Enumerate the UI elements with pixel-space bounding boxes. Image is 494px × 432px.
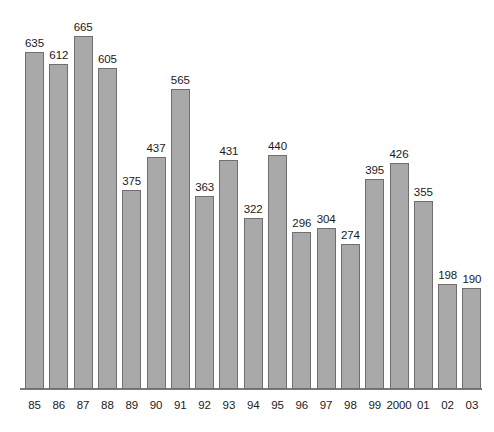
x-axis-tick-label: 02 [441,399,454,412]
bar[interactable] [244,218,263,389]
bar-value-label: 355 [414,186,433,199]
x-axis-tick-label: 93 [223,399,236,412]
bar[interactable] [219,160,238,389]
x-axis-tick-label: 98 [344,399,357,412]
x-axis-tick-label: 86 [53,399,66,412]
bar-value-label: 437 [147,142,166,155]
bar[interactable] [171,89,190,389]
bar[interactable] [390,163,409,389]
x-axis-tick-label: 91 [174,399,187,412]
bar-chart: 6358561286665876058837589437905659136392… [0,0,494,432]
bar[interactable] [147,157,166,389]
x-axis-tick-label: 85 [28,399,41,412]
bar-value-label: 431 [219,145,238,158]
bar[interactable] [341,244,360,389]
bar-value-label: 296 [292,217,311,230]
bar[interactable] [292,232,311,389]
bar[interactable] [98,68,117,389]
x-axis-tick-label: 92 [198,399,211,412]
x-axis-tick-label: 90 [150,399,163,412]
bar-value-label: 395 [365,164,384,177]
bar-value-label: 190 [462,273,481,286]
bar-value-label: 198 [438,269,457,282]
bar-value-label: 426 [390,148,409,161]
bar-value-label: 565 [171,74,190,87]
bar-value-label: 322 [244,203,263,216]
bar[interactable] [317,228,336,389]
bar[interactable] [195,196,214,389]
plot-area: 6358561286665876058837589437905659136392… [0,0,494,432]
x-axis-tick-label: 88 [101,399,114,412]
x-axis-tick-label: 2000 [386,399,411,412]
bar-value-label: 605 [98,53,117,66]
bar[interactable] [268,155,287,389]
x-axis-tick-label: 97 [320,399,333,412]
bar-value-label: 363 [195,181,214,194]
bar-value-label: 665 [74,21,93,34]
bar-value-label: 635 [25,37,44,50]
x-axis-tick-label: 96 [296,399,309,412]
bar-value-label: 304 [317,213,336,226]
bar[interactable] [74,36,93,389]
bar-value-label: 440 [268,140,287,153]
bar-value-label: 612 [49,49,68,62]
bar[interactable] [365,179,384,389]
bar[interactable] [462,288,481,389]
x-axis-tick-label: 99 [368,399,381,412]
bar[interactable] [122,190,141,389]
bar-value-label: 375 [122,175,141,188]
x-axis-tick-label: 87 [77,399,90,412]
bar[interactable] [414,201,433,389]
bar[interactable] [438,284,457,389]
x-axis-tick-label: 01 [417,399,430,412]
bar[interactable] [49,64,68,389]
bar[interactable] [25,52,44,389]
x-axis-tick-label: 94 [247,399,260,412]
x-axis-tick-label: 03 [466,399,479,412]
bar-value-label: 274 [341,229,360,242]
x-axis-tick-label: 95 [271,399,284,412]
x-axis-tick-label: 89 [125,399,138,412]
